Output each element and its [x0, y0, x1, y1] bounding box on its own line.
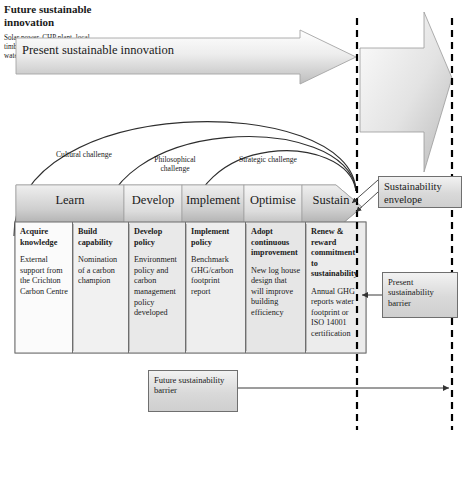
table-column-heading: Acquire knowledge — [20, 227, 68, 248]
future-barrier-callout: Future sustainability barrier — [148, 370, 238, 412]
table-column: Renew & reward commitment to sustainabil… — [306, 222, 366, 353]
table-column-body: External support from the Crichton Carbo… — [20, 255, 68, 298]
table-column-body: Environment policy and carbon management… — [134, 255, 181, 319]
future-innovation-arrow — [360, 12, 452, 172]
table-column-body: Nomination of a carbon champion — [78, 255, 124, 287]
table-column-heading: Implement policy — [191, 227, 241, 248]
arc-label-cultural: Cultural challenge — [56, 150, 112, 159]
table-column-body: Benchmark GHG/carbon footprint report — [191, 255, 241, 298]
stage-label-learn[interactable]: Learn — [16, 189, 124, 211]
table-column-heading: Develop policy — [134, 227, 181, 248]
present-innovation-label: Present sustainable innovation — [22, 43, 262, 57]
table-column: Build capability Nomination of a carbon … — [73, 222, 129, 353]
table-column-heading: Renew & reward commitment to sustainabil… — [311, 227, 362, 280]
present-barrier-callout: Present sustainability barrier — [382, 272, 458, 318]
arc-label-philosophical: Philosophical challenge — [140, 155, 210, 174]
table-column: Implement policy Benchmark GHG/carbon fo… — [186, 222, 246, 353]
table-column: Develop policy Environment policy and ca… — [129, 222, 186, 353]
table-column-body: Annual GHG reports water footprint or IS… — [311, 287, 362, 340]
diagram-canvas: Present sustainable innovation Cultural … — [0, 0, 470, 484]
stage-label-sustain[interactable]: Sustain — [302, 189, 360, 211]
table-column-heading: Build capability — [78, 227, 124, 248]
table-column-body: New log house design that will improve b… — [251, 266, 301, 319]
sustainability-envelope-callout: Sustainability envelope — [378, 176, 462, 208]
table-column-heading: Adopt continuous improvement — [251, 227, 301, 259]
table-column: Acquire knowledge External support from … — [15, 222, 73, 353]
present-innovation-arrow — [16, 30, 356, 84]
stage-label-optimise[interactable]: Optimise — [244, 189, 302, 211]
arc-label-strategic: Strategic challenge — [227, 155, 309, 164]
stage-label-develop[interactable]: Develop — [124, 189, 182, 211]
table-column: Adopt continuous improvement New log hou… — [246, 222, 306, 353]
stage-label-implement[interactable]: Implement — [182, 189, 244, 211]
stage-detail-table: Acquire knowledge External support from … — [15, 222, 366, 353]
